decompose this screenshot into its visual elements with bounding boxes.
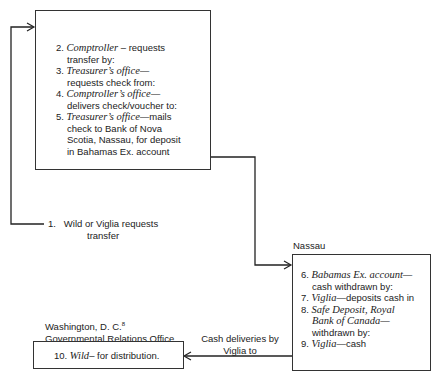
step-9: 9. Viglia—cash [301, 338, 431, 350]
step-1: 1. Wild or Viglia requests transfer [48, 218, 178, 242]
step-8: 8. Safe Deposit, Royal Bank of Canada— w… [301, 304, 431, 339]
step-2: 2. Comptroller – requests transfer by: [56, 42, 206, 65]
top-box: 2. Comptroller – requests transfer by: 3… [35, 10, 211, 170]
step-4: 4. Comptroller’s office— delivers check/… [56, 88, 206, 111]
nassau-label: Nassau [293, 240, 325, 252]
cash-deliveries-label: Cash deliveries by Viglia to [200, 333, 280, 357]
nassau-box: 6. Babamas Ex. account— cash withdrawn b… [292, 254, 431, 371]
step-6: 6. Babamas Ex. account— cash withdrawn b… [301, 269, 431, 292]
step-3: 3. Treasurer’s office— requests check fr… [56, 65, 206, 88]
step-7: 7. Viglia—deposits cash in [301, 292, 431, 304]
step-5: 5. Treasurer’s office—mails check to Ban… [56, 111, 206, 157]
washington-box: 10. Wild– for distribution. [33, 341, 184, 369]
step-10: 10. Wild– for distribution. [54, 350, 159, 362]
